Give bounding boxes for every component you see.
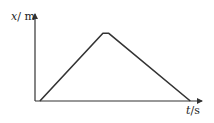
y-axis-unit: / m	[17, 10, 35, 23]
position-line	[40, 33, 190, 101]
y-axis-label: x/ m	[11, 10, 35, 23]
x-axis-label: t/s	[186, 104, 200, 117]
x-axis-unit: /s	[190, 104, 199, 117]
